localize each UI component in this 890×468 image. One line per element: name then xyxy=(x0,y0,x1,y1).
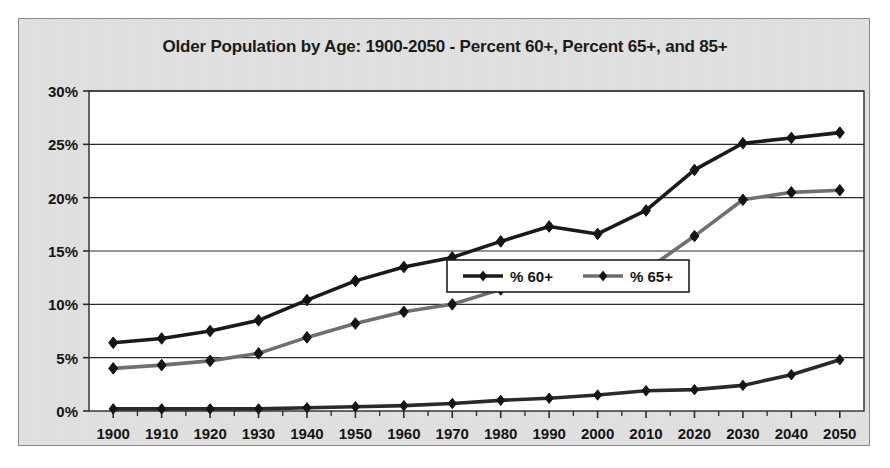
x-tick-label: 2000 xyxy=(581,425,614,442)
chart-figure: Older Population by Age: 1900-2050 - Per… xyxy=(18,18,870,446)
x-tick-label: 1920 xyxy=(193,425,226,442)
y-tick-label: 15% xyxy=(48,243,78,260)
y-tick-label: 0% xyxy=(56,403,78,420)
y-axis-tick-labels: 0%5%10%15%20%25%30% xyxy=(48,83,78,420)
x-axis-tick-labels: 1900191019201930194019501960197019801990… xyxy=(97,425,857,442)
y-tick-label: 5% xyxy=(56,350,78,367)
x-tick-label: 1960 xyxy=(387,425,420,442)
x-tick-label: 1970 xyxy=(436,425,469,442)
y-tick-label: 10% xyxy=(48,296,78,313)
x-tick-label: 1990 xyxy=(532,425,565,442)
x-tick-label: 1980 xyxy=(484,425,517,442)
legend-label: % 60+ xyxy=(510,268,553,285)
x-tick-label: 2030 xyxy=(726,425,759,442)
x-tick-label: 2050 xyxy=(823,425,856,442)
x-tick-label: 1950 xyxy=(339,425,372,442)
x-tick-label: 1910 xyxy=(145,425,178,442)
y-tick-label: 25% xyxy=(48,136,78,153)
x-tick-label: 1940 xyxy=(290,425,323,442)
x-tick-label: 2020 xyxy=(678,425,711,442)
x-tick-label: 2040 xyxy=(775,425,808,442)
chart-legend: % 60+% 65+ xyxy=(447,260,689,292)
x-tick-label: 1930 xyxy=(242,425,275,442)
chart-plot-area: 0%5%10%15%20%25%30% 19001910192019301940… xyxy=(19,19,871,447)
x-tick-label: 2010 xyxy=(629,425,662,442)
x-axis-ticks xyxy=(113,411,840,418)
y-tick-label: 30% xyxy=(48,83,78,100)
y-tick-label: 20% xyxy=(48,190,78,207)
x-tick-label: 1900 xyxy=(97,425,130,442)
legend-label: % 65+ xyxy=(630,268,673,285)
